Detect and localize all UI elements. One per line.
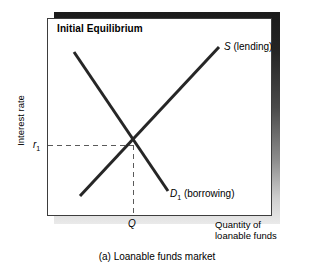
supply-curve bbox=[80, 47, 219, 196]
demand-curve-symbol: D1 bbox=[170, 188, 181, 199]
supply-curve-description: (lending) bbox=[231, 41, 273, 52]
y-axis-tick-label-r1: r1 bbox=[33, 139, 40, 152]
figure-caption: (a) Loanable funds market bbox=[0, 251, 314, 262]
demand-curve bbox=[74, 52, 168, 191]
supply-curve-symbol: S bbox=[224, 41, 231, 52]
y-axis-label: Interest rate bbox=[15, 77, 26, 165]
demand-curve-label: D1 (borrowing) bbox=[170, 188, 235, 201]
x-axis-label-line1: Quantity of bbox=[215, 220, 277, 231]
supply-curve-label: S (lending) bbox=[224, 41, 272, 52]
loanable-funds-figure: Initial Equilibrium Interest rate r1 Q Q… bbox=[0, 0, 314, 278]
y-tick-subscript: 1 bbox=[36, 145, 40, 152]
x-axis-label-line2: loanable funds bbox=[215, 231, 277, 242]
x-axis-label: Quantity of loanable funds bbox=[215, 220, 277, 241]
x-axis-tick-label-q: Q bbox=[128, 218, 136, 229]
demand-curve-description: (borrowing) bbox=[181, 188, 234, 199]
